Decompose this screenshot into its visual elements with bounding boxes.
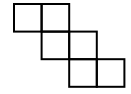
net-square-4 [69, 32, 97, 60]
square-net-diagram [0, 0, 131, 94]
net-square-5 [69, 59, 97, 87]
net-square-2 [42, 4, 70, 32]
net-square-6 [97, 59, 125, 87]
net-square-1 [14, 4, 42, 32]
net-square-3 [42, 32, 70, 60]
